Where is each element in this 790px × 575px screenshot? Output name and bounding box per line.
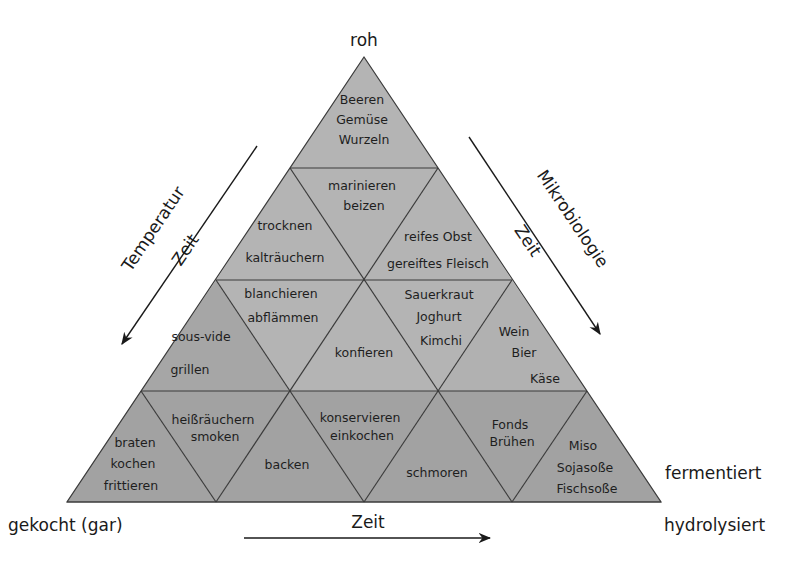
cell-baking-label: backen bbox=[265, 457, 310, 472]
cell-braising-label: schmoren bbox=[406, 465, 468, 480]
corner-label-fermented: fermentiert bbox=[665, 463, 762, 483]
cooking-triangle-diagram: Beeren Gemüse Wurzeln marinieren beizen … bbox=[0, 0, 790, 575]
corner-label-raw: roh bbox=[350, 30, 378, 50]
cell-confit-label: konfieren bbox=[335, 345, 393, 360]
cell-raw-label: Beeren Gemüse Wurzeln bbox=[336, 92, 392, 147]
right-axis-label-microbiology: Mikrobiologie bbox=[533, 166, 613, 271]
corner-label-hydrolysed: hydrolysiert bbox=[664, 515, 765, 535]
corner-label-cooked: gekocht (gar) bbox=[8, 515, 123, 535]
right-axis-label-time: Zeit bbox=[510, 221, 545, 260]
left-axis-label-time: Zeit bbox=[167, 230, 202, 269]
bottom-axis-label-time: Zeit bbox=[351, 512, 385, 532]
